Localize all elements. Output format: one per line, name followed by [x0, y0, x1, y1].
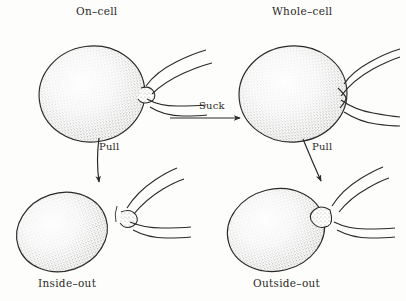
panel-outside-out	[219, 167, 395, 282]
transition-label-suck: Suck	[199, 100, 225, 111]
inside-out-patch	[115, 206, 137, 227]
inside-out-cell-body	[6, 181, 118, 284]
transition-label-pull-right: Pull	[312, 141, 332, 152]
on-cell-body	[33, 39, 151, 149]
outside-out-cell-body	[219, 178, 334, 281]
panel-on-cell	[33, 39, 212, 149]
panel-whole-cell	[235, 41, 400, 146]
panel-label-outside-out: Outside–out	[253, 277, 320, 289]
inside-out-pipette	[127, 168, 191, 238]
panel-label-whole-cell: Whole–cell	[272, 5, 333, 17]
whole-cell-pipette	[338, 49, 400, 126]
panel-label-inside-out: Inside–out	[38, 277, 96, 289]
transition-label-pull-left: Pull	[99, 141, 119, 152]
figure-artwork	[0, 0, 406, 301]
panel-inside-out	[6, 168, 191, 283]
whole-cell-body	[235, 41, 351, 146]
outside-out-pipette	[332, 167, 395, 238]
panel-label-on-cell: On–cell	[76, 5, 118, 17]
patch-clamp-figure: On–cell Whole–cell Inside–out Outside–ou…	[0, 0, 406, 301]
